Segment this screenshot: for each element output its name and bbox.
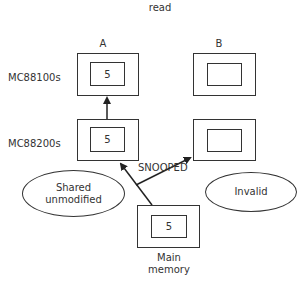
state-b-label: Invalid (234, 186, 267, 198)
main-memory-line: 5 (151, 215, 187, 238)
row-label-mc88100s: MC88100s (8, 72, 61, 84)
column-label-b: B (209, 38, 229, 50)
cache-line-a-cmmu: 5 (90, 127, 125, 152)
state-ellipse-b: Invalid (205, 172, 297, 212)
state-a-line2: unmodified (45, 194, 101, 206)
snooped-label: SNOOPED (138, 162, 188, 174)
column-label-a: A (93, 38, 113, 50)
main-memory-label-line2: memory (138, 264, 200, 276)
row-label-mc88200s: MC88200s (8, 138, 61, 150)
main-memory-label: Main memory (138, 252, 200, 276)
cache-line-a-cpu: 5 (90, 62, 125, 86)
state-a-line1: Shared (45, 182, 101, 194)
cache-line-b-cpu (207, 63, 242, 86)
state-ellipse-a: Shared unmodified (22, 170, 125, 217)
cache-line-b-cmmu (207, 129, 242, 152)
main-memory-label-line1: Main (138, 252, 200, 264)
diagram-title: read (140, 2, 180, 14)
